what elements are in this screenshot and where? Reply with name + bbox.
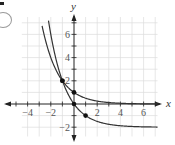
svg-text:−2: −2 xyxy=(59,122,70,133)
svg-text:4: 4 xyxy=(118,107,123,118)
svg-text:−4: −4 xyxy=(22,107,33,118)
exponential-graph: −4−2246642−2 x y xyxy=(0,0,175,145)
svg-text:2: 2 xyxy=(95,107,100,118)
y-axis-label: y xyxy=(70,0,76,12)
svg-text:−2: −2 xyxy=(45,107,56,118)
svg-text:4: 4 xyxy=(65,52,70,63)
svg-text:6: 6 xyxy=(141,107,146,118)
x-axis-label: x xyxy=(165,97,171,109)
svg-text:6: 6 xyxy=(65,29,70,40)
svg-text:2: 2 xyxy=(65,75,70,86)
